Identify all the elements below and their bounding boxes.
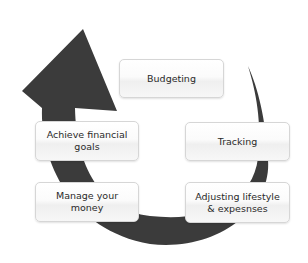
arrowhead xyxy=(22,29,117,111)
step-adjusting-label: Adjusting lifestyle & expesnses xyxy=(195,191,280,215)
step-budgeting: Budgeting xyxy=(119,59,224,98)
step-achieve-financial-goals: Achieve financial goals xyxy=(35,121,139,161)
step-tracking-label: Tracking xyxy=(218,136,258,148)
step-tracking: Tracking xyxy=(185,122,290,161)
financial-cycle-diagram: Budgeting Achieve financial goals Tracki… xyxy=(0,0,308,263)
step-budgeting-label: Budgeting xyxy=(147,73,196,85)
step-achieve-label: Achieve financial goals xyxy=(47,129,128,153)
step-adjusting-lifestyle: Adjusting lifestyle & expesnses xyxy=(185,182,290,223)
step-manage-your-money: Manage your money xyxy=(35,182,139,222)
step-manage-label: Manage your money xyxy=(56,190,118,214)
